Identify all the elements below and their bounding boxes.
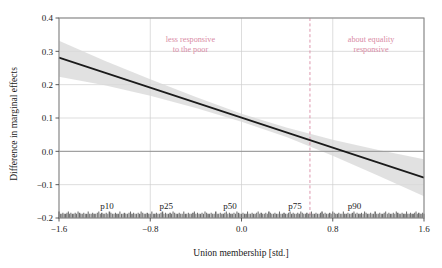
about-equality-annotation-line1: about equality xyxy=(348,35,396,44)
y-tick-label: 0.2 xyxy=(42,80,53,90)
x-tick-label: 1.6 xyxy=(418,224,430,234)
marginal-effects-chart: −0.2−0.10.00.10.20.30.4 −1.6−0.80.00.81.… xyxy=(0,0,442,268)
percentile-label-p50: p50 xyxy=(223,201,237,211)
y-tick-label: 0.1 xyxy=(42,113,53,123)
x-tick-label: 0.0 xyxy=(236,224,248,234)
x-axis-title: Union membership [std.] xyxy=(193,248,288,258)
x-tick-label: 0.8 xyxy=(327,224,339,234)
y-axis-title: Difference in marginal effects xyxy=(9,67,19,181)
y-tick-label: 0.0 xyxy=(42,147,54,157)
y-tick-label: 0.4 xyxy=(42,13,54,23)
percentile-label-p75: p75 xyxy=(288,201,302,211)
less-responsive-annotation-line2: to the poor xyxy=(173,45,209,54)
about-equality-annotation-line2: responsive xyxy=(354,45,389,54)
x-tick-label: −1.6 xyxy=(51,224,68,234)
y-tick-label: −0.2 xyxy=(37,213,53,223)
percentile-label-p25: p25 xyxy=(159,201,173,211)
y-tick-label: 0.3 xyxy=(42,47,54,57)
less-responsive-annotation-line1: less responsive xyxy=(166,35,216,44)
y-tick-label: −0.1 xyxy=(37,180,53,190)
x-tick-label: −0.8 xyxy=(142,224,159,234)
percentile-label-p10: p10 xyxy=(100,201,114,211)
percentile-label-p90: p90 xyxy=(348,201,362,211)
